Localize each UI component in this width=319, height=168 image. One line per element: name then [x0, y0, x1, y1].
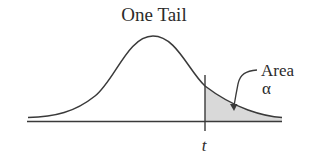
bell-curve [28, 36, 282, 118]
diagram-title: One Tail [121, 4, 186, 25]
annotation-leader-line [234, 70, 257, 106]
alpha-label: α [262, 79, 271, 98]
one-tail-distribution-figure: One Tail Area α t [0, 0, 319, 168]
critical-value-t-label: t [202, 136, 208, 155]
distribution-diagram: One Tail Area α t [0, 0, 319, 168]
area-label: Area [261, 61, 294, 80]
